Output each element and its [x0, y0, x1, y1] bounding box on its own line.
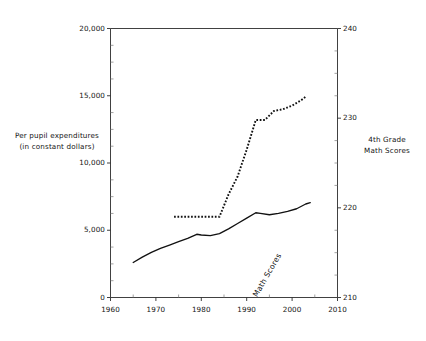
x-axis-tick-label: 1970: [136, 306, 176, 314]
y2-axis-tick-label: 230: [343, 114, 383, 122]
axes-group: [107, 29, 341, 302]
series-group: [133, 97, 310, 263]
x-axis-tick-label: 2010: [318, 306, 358, 314]
y-axis-tick-label: 0: [65, 294, 105, 302]
y-axis-tick-label: 10,000: [65, 159, 105, 167]
left-axis-title-line2: (in constant dollars): [8, 141, 106, 152]
y2-axis-tick-label: 210: [343, 294, 383, 302]
x-axis-tick-label: 1980: [181, 306, 221, 314]
y-axis-tick-label: 15,000: [65, 92, 105, 100]
y-axis-tick-label: 5,000: [65, 226, 105, 234]
right-axis-title: 4th Grade Math Scores: [352, 134, 422, 156]
x-axis-tick-label: 1990: [227, 306, 267, 314]
plot-canvas: [0, 0, 426, 341]
y2-axis-tick-label: 220: [343, 204, 383, 212]
series-line-math-scores: [174, 97, 306, 217]
right-axis-title-line2: Math Scores: [352, 145, 422, 156]
y2-axis-tick-label: 240: [343, 25, 383, 33]
x-axis-tick-label: 1960: [91, 306, 131, 314]
left-axis-title-line1: Per pupil expenditures: [8, 130, 106, 141]
chart-figure: Per pupil expenditures (in constant doll…: [0, 0, 426, 341]
right-axis-title-line1: 4th Grade: [352, 134, 422, 145]
x-axis-tick-label: 2000: [272, 306, 312, 314]
left-axis-title: Per pupil expenditures (in constant doll…: [8, 130, 106, 152]
y-axis-tick-label: 20,000: [65, 25, 105, 33]
